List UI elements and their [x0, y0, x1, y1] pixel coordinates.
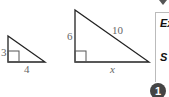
small-leg-vertical-label: 3 — [1, 47, 7, 58]
large-leg-horizontal-label: x — [110, 64, 115, 75]
large-hypotenuse-label: 10 — [112, 25, 123, 36]
side-rail — [155, 12, 156, 82]
small-triangle — [8, 36, 45, 62]
side-heading-example: Ex — [160, 18, 169, 29]
small-leg-horizontal-label: 4 — [24, 64, 30, 75]
triangle-figures — [0, 0, 169, 97]
step-number-badge: 1 — [150, 83, 166, 97]
large-leg-vertical-label: 6 — [67, 31, 73, 42]
arrow-down-icon — [159, 0, 167, 5]
side-heading-solution: S — [160, 52, 167, 63]
side-rail-top — [155, 12, 169, 13]
large-triangle — [75, 10, 149, 62]
